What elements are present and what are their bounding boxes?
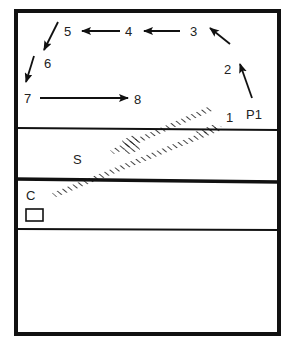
label-3: 3 [190, 24, 197, 39]
outer-frame [16, 11, 279, 334]
divider-line-thick [16, 179, 279, 182]
arrow-5-to-6 [44, 22, 58, 50]
divider-line-lower [16, 229, 279, 230]
label-1: 1 [226, 110, 233, 125]
label-8: 8 [134, 92, 141, 107]
label-6: 6 [44, 56, 51, 71]
arrow-p1-to-2 [240, 64, 252, 98]
c-box [26, 209, 43, 221]
label-p1: P1 [246, 107, 262, 122]
label-2: 2 [224, 62, 231, 77]
label-5: 5 [64, 24, 71, 39]
diagram-canvas: 5 4 3 6 2 7 8 1 P1 S C [0, 0, 297, 354]
label-c: C [26, 188, 35, 203]
label-s: S [73, 152, 82, 167]
arrow-6-to-7 [26, 56, 34, 82]
movement-arrows [26, 22, 252, 98]
divider-line-upper [16, 128, 279, 130]
label-4: 4 [125, 24, 132, 39]
arrow-to-3 [210, 28, 230, 44]
label-7: 7 [24, 91, 31, 106]
